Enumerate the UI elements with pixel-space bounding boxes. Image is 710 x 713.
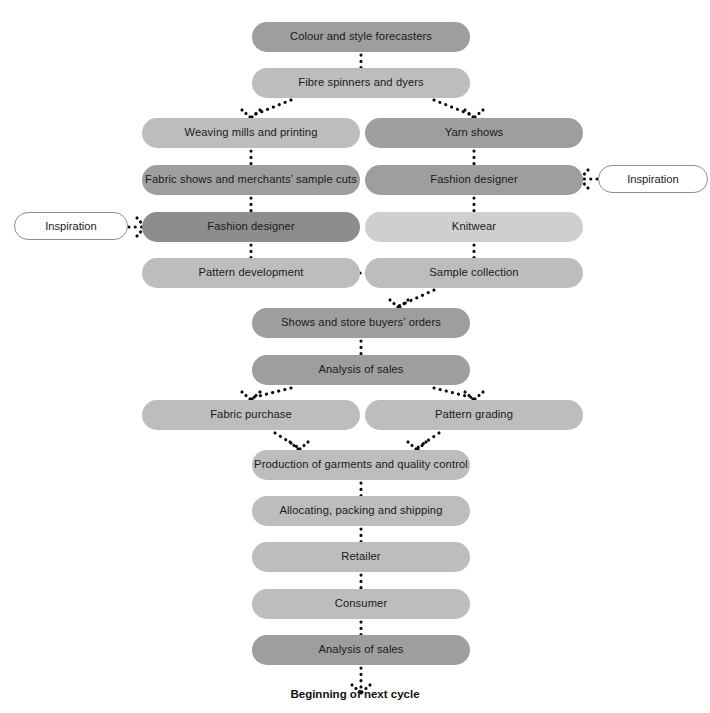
- arrow-spinners-to-yarn-shows: [434, 100, 483, 120]
- node-pattern-development: Pattern development: [142, 258, 360, 288]
- node-sample-collection: Sample collection: [365, 258, 583, 288]
- node-inspiration-left: Inspiration: [14, 212, 128, 240]
- node-shows-store-buyers-orders: Shows and store buyers’ orders: [252, 308, 470, 338]
- node-fashion-designer-left: Fashion designer: [142, 212, 360, 242]
- node-colour-style-forecasters: Colour and style forecasters: [252, 22, 470, 52]
- arrow-sample-collection-to-shows: [390, 290, 434, 310]
- flowchart-canvas: Colour and style forecastersFibre spinne…: [0, 0, 710, 713]
- node-analysis-of-sales-top: Analysis of sales: [252, 355, 470, 385]
- arrow-pattern-grading-to-production: [408, 433, 439, 452]
- node-fabric-shows-sample-cuts: Fabric shows and merchants’ sample cuts: [142, 165, 360, 195]
- node-yarn-shows: Yarn shows: [365, 118, 583, 148]
- node-consumer: Consumer: [252, 589, 470, 619]
- arrow-fabric-purchase-to-production: [275, 433, 308, 452]
- node-weaving-mills-printing: Weaving mills and printing: [142, 118, 360, 148]
- beginning-of-next-cycle-caption: Beginning of next cycle: [0, 688, 710, 700]
- arrow-spinners-to-weaving: [242, 100, 291, 120]
- node-retailer: Retailer: [252, 542, 470, 572]
- node-pattern-grading: Pattern grading: [365, 400, 583, 430]
- node-analysis-of-sales-bottom: Analysis of sales: [252, 635, 470, 665]
- node-production-quality-control: Production of garments and quality contr…: [252, 450, 470, 480]
- node-fashion-designer-right: Fashion designer: [365, 165, 583, 195]
- node-knitwear: Knitwear: [365, 212, 583, 242]
- node-inspiration-right: Inspiration: [598, 165, 708, 193]
- node-allocating-packing-shipping: Allocating, packing and shipping: [252, 496, 470, 526]
- node-fibre-spinners-dyers: Fibre spinners and dyers: [252, 68, 470, 98]
- node-fabric-purchase: Fabric purchase: [142, 400, 360, 430]
